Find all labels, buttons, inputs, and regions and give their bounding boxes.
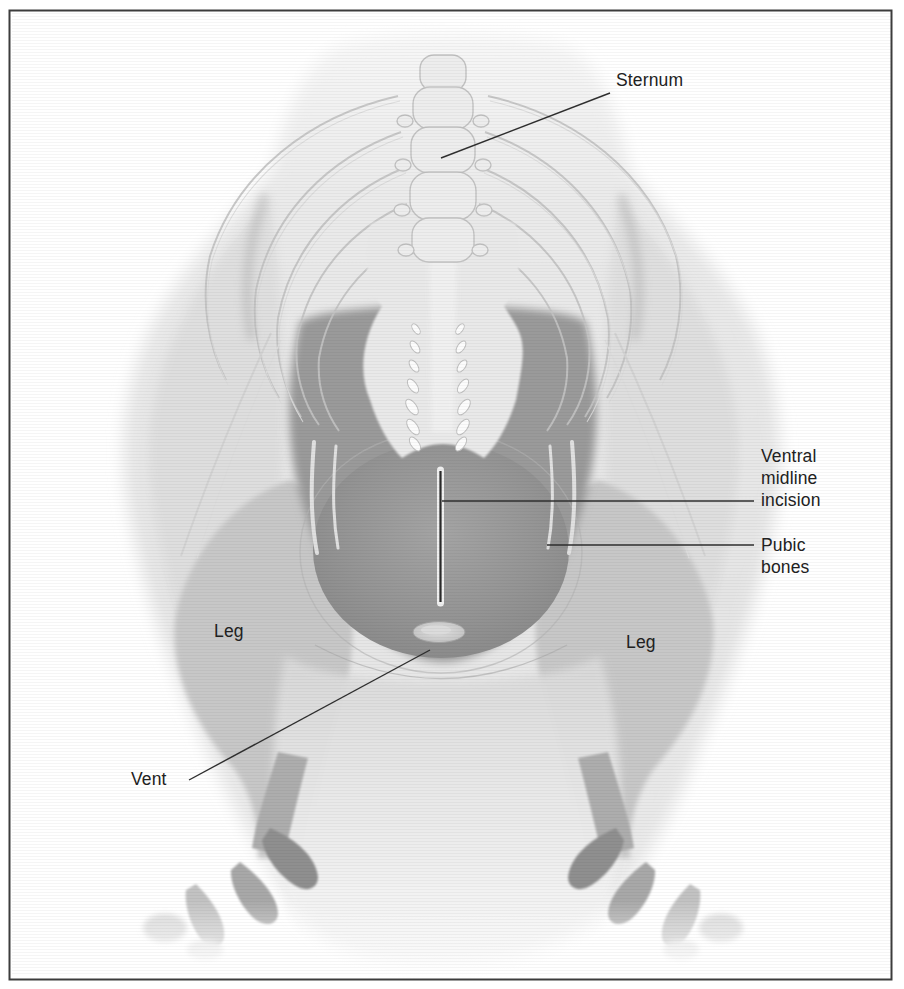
halftone-texture	[12, 12, 892, 976]
ventral-midline-incision-label-line2: midline	[761, 467, 821, 489]
ventral-midline-incision-label-line3: incision	[761, 489, 821, 511]
pubic-bones-label: Pubic bones	[761, 534, 809, 578]
anatomical-figure: Sternum Ventral midline incision Pubic b…	[0, 0, 904, 989]
pubic-bones-label-line2: bones	[761, 556, 809, 578]
sternum-label: Sternum	[616, 69, 683, 91]
leg-right-label: Leg	[626, 631, 656, 653]
ventral-midline-incision-label-line1: Ventral	[761, 445, 821, 467]
vent-label: Vent	[131, 768, 167, 790]
ventral-midline-incision-label: Ventral midline incision	[761, 445, 821, 511]
pubic-bones-label-line1: Pubic	[761, 534, 809, 556]
leg-left-label: Leg	[214, 620, 244, 642]
